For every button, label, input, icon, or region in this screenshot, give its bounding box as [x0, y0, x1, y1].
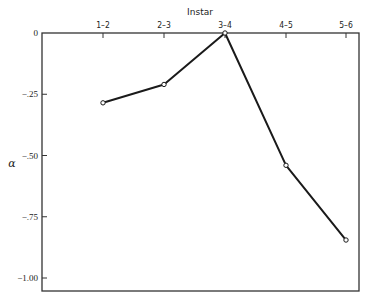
series-line [103, 33, 346, 240]
x-tick-label: 1–2 [96, 20, 110, 30]
x-tick-label: 5–6 [339, 20, 353, 30]
data-point-marker [162, 82, 166, 86]
plot-border [42, 33, 359, 291]
y-axis-title: α [8, 157, 16, 170]
y-tick-label: −.75 [22, 212, 39, 222]
y-tick-label: −.25 [22, 89, 39, 99]
x-axis-title: Instar [187, 7, 213, 17]
data-point-marker [223, 31, 227, 35]
x-tick-label: 4–5 [279, 20, 293, 30]
x-tick-label: 3–4 [218, 20, 232, 30]
data-point-marker [284, 163, 288, 167]
x-tick-label: 2–3 [157, 20, 171, 30]
line-chart: 1–22–33–44–55–6 0−.25−.50−.75−1.00 Insta… [0, 0, 374, 306]
data-point-marker [101, 101, 105, 105]
plot-frame [42, 33, 359, 291]
data-point-marker [344, 238, 348, 242]
y-tick-label: 0 [34, 28, 39, 38]
y-tick-label: −.50 [22, 151, 39, 161]
y-tick-label: −1.00 [17, 273, 38, 283]
data-series [101, 31, 348, 242]
